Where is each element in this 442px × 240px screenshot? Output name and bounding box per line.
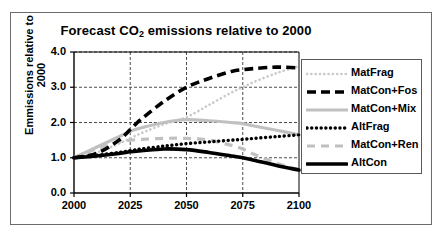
legend-swatch-altfrag bbox=[306, 120, 348, 132]
x-tick-label: 2075 bbox=[223, 199, 263, 211]
legend-label: MatFrag bbox=[351, 66, 394, 78]
legend-swatch-matcon-fos bbox=[306, 84, 348, 96]
legend-swatch-altcon bbox=[306, 156, 348, 168]
legend-item[interactable]: MatCon+Fos bbox=[302, 81, 421, 99]
legend-item[interactable]: AltCon bbox=[302, 153, 421, 171]
chart-figure: Forecast CO2 emissions relative to 2000 … bbox=[10, 12, 432, 225]
y-tick-label: 4.0 bbox=[40, 45, 66, 57]
legend-swatch-matcon-mix bbox=[306, 102, 348, 114]
x-tick-label: 2100 bbox=[279, 199, 319, 211]
x-tick-label: 2000 bbox=[54, 199, 94, 211]
y-tick-label: 0.0 bbox=[40, 186, 66, 198]
y-tick-label: 3.0 bbox=[40, 80, 66, 92]
x-tick-label: 2050 bbox=[167, 199, 207, 211]
legend-swatch-matcon-ren bbox=[306, 138, 348, 150]
legend-swatch-matfrag bbox=[306, 66, 348, 78]
chart-legend: MatFragMatCon+FosMatCon+MixAltFragMatCon… bbox=[301, 59, 422, 174]
legend-label: MatCon+Mix bbox=[351, 102, 416, 114]
legend-item[interactable]: MatCon+Mix bbox=[302, 99, 421, 117]
legend-item[interactable]: MatCon+Ren bbox=[302, 135, 421, 153]
y-tick-label: 2.0 bbox=[40, 116, 66, 128]
x-tick-label: 2025 bbox=[110, 199, 150, 211]
y-tick-label: 1.0 bbox=[40, 151, 66, 163]
legend-label: AltFrag bbox=[351, 120, 390, 132]
legend-item[interactable]: AltFrag bbox=[302, 117, 421, 135]
legend-label: MatCon+Ren bbox=[351, 138, 419, 150]
legend-label: MatCon+Fos bbox=[351, 84, 417, 96]
legend-label: AltCon bbox=[351, 156, 387, 168]
legend-item[interactable]: MatFrag bbox=[302, 63, 421, 81]
